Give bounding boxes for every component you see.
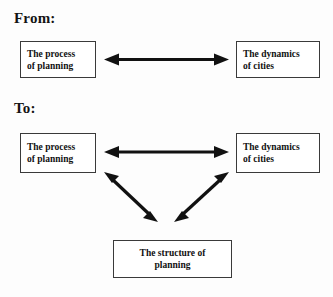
- node-to-process-line1: The process: [27, 141, 75, 153]
- node-to-structure-line1: The structure of: [140, 247, 206, 259]
- arrowhead-right: [214, 146, 229, 158]
- arrow-to-process-structure: [104, 172, 158, 222]
- figure-canvas: From: The process of planning The dynami…: [0, 0, 333, 297]
- arrowhead-left: [104, 146, 119, 158]
- node-from-dynamics: The dynamics of cities: [236, 41, 320, 78]
- arrowhead-lower-left: [174, 211, 189, 222]
- node-from-dynamics-line2: of cities: [243, 60, 274, 72]
- node-to-structure-line2: planning: [155, 259, 191, 271]
- node-to-dynamics-line1: The dynamics: [243, 141, 300, 153]
- arrow-to-structure-dynamics: [174, 172, 229, 222]
- node-to-process: The process of planning: [20, 133, 96, 173]
- node-from-process: The process of planning: [20, 41, 96, 78]
- arrowhead-left: [104, 54, 119, 66]
- section-label-from: From:: [14, 10, 56, 26]
- node-to-dynamics-line2: of cities: [243, 153, 274, 165]
- node-from-process-line2: of planning: [27, 60, 73, 72]
- arrowhead-upper-left: [104, 172, 119, 183]
- arrowhead-upper-right: [214, 172, 229, 183]
- section-label-to: To:: [14, 100, 36, 116]
- node-to-structure: The structure of planning: [113, 240, 232, 278]
- arrow-to-process-dynamics: [104, 146, 229, 158]
- arrowhead-lower-right: [143, 211, 158, 222]
- arrow-from-process-dynamics: [104, 54, 229, 66]
- node-to-process-line2: of planning: [27, 153, 73, 165]
- node-to-dynamics: The dynamics of cities: [236, 133, 320, 173]
- arrowhead-right: [214, 54, 229, 66]
- node-from-dynamics-line1: The dynamics: [243, 48, 300, 60]
- node-from-process-line1: The process: [27, 48, 75, 60]
